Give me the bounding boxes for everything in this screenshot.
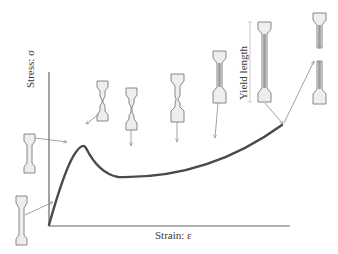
stress-strain-curve [49, 125, 282, 225]
arrow-fracture [284, 61, 314, 123]
yield-length-label: Yield length [237, 46, 249, 100]
y-axis-label: Stress: σ [24, 50, 36, 88]
specimen-yield [24, 134, 35, 173]
stress-strain-diagram [0, 0, 338, 254]
specimen-fracture [313, 13, 326, 104]
arrow-fully-drawn [265, 103, 283, 124]
arrow-cold-drawing-2 [215, 103, 218, 138]
arrow-yield [35, 138, 67, 142]
specimen-neck-propagation [126, 88, 137, 130]
specimen-cold-drawing-1 [171, 74, 184, 122]
specimen-cold-drawing-2 [213, 51, 226, 103]
specimen-neck-initiation [97, 81, 108, 121]
specimen-elastic [16, 196, 27, 245]
specimen-fully-drawn [258, 22, 271, 102]
axes [49, 72, 290, 226]
x-axis-label: Strain: ε [155, 229, 192, 241]
